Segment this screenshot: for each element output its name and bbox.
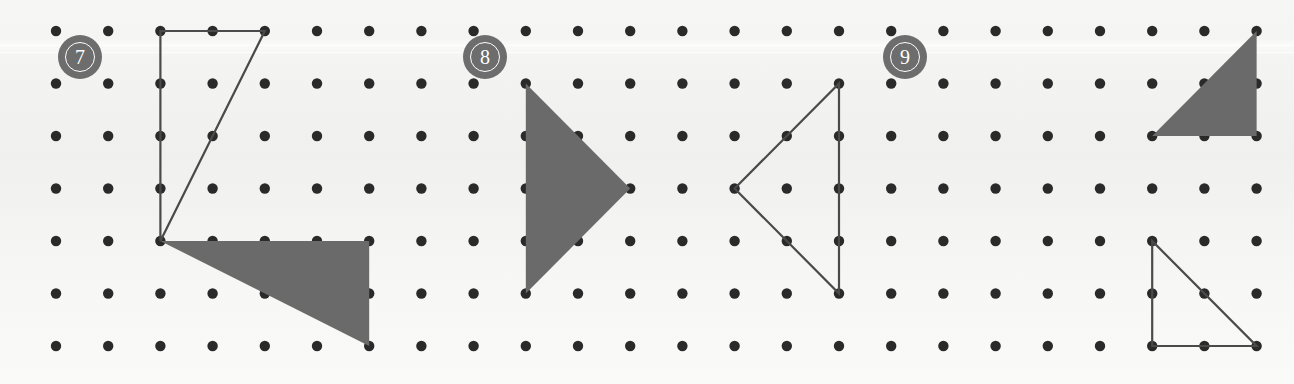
grid-dot bbox=[207, 78, 217, 88]
grid-dot bbox=[51, 183, 61, 193]
problem-badge-9: 9 bbox=[883, 35, 927, 79]
grid-dot bbox=[1095, 236, 1105, 246]
grid-dot bbox=[312, 26, 322, 36]
problem-8-filled-triangle bbox=[526, 84, 630, 294]
grid-dot bbox=[1095, 26, 1105, 36]
grid-dot bbox=[990, 26, 1000, 36]
grid-dot bbox=[573, 341, 583, 351]
grid-dot bbox=[468, 78, 478, 88]
grid-dot bbox=[990, 183, 1000, 193]
grid-dot bbox=[729, 236, 739, 246]
grid-dot bbox=[625, 341, 635, 351]
grid-dot bbox=[1043, 341, 1053, 351]
grid-dot bbox=[51, 78, 61, 88]
grid-dot bbox=[886, 341, 896, 351]
grid-dot bbox=[886, 236, 896, 246]
grid-dot bbox=[886, 131, 896, 141]
grid-dot bbox=[416, 341, 426, 351]
grid-dot bbox=[312, 78, 322, 88]
grid-dot bbox=[260, 341, 270, 351]
grid-dot bbox=[1095, 341, 1105, 351]
grid-dot bbox=[573, 288, 583, 298]
grid-dot bbox=[1095, 183, 1105, 193]
grid-dot bbox=[364, 26, 374, 36]
grid-dot bbox=[938, 26, 948, 36]
grid-dot bbox=[260, 78, 270, 88]
grid-dot bbox=[990, 131, 1000, 141]
grid-dot bbox=[990, 78, 1000, 88]
grid-dot bbox=[1199, 26, 1209, 36]
grid-dot bbox=[1095, 131, 1105, 141]
grid-dot bbox=[1043, 236, 1053, 246]
grid-dot bbox=[1043, 288, 1053, 298]
grid-dot bbox=[51, 236, 61, 246]
dot-grid bbox=[51, 26, 1262, 351]
grid-dot bbox=[468, 288, 478, 298]
shape-group bbox=[160, 31, 1256, 346]
grid-dot bbox=[1147, 26, 1157, 36]
badge-number-label: 7 bbox=[75, 47, 85, 67]
grid-dot bbox=[103, 288, 113, 298]
grid-dot bbox=[416, 78, 426, 88]
badge-ring: 9 bbox=[890, 42, 920, 72]
grid-dot bbox=[364, 78, 374, 88]
grid-dot bbox=[364, 131, 374, 141]
grid-dot bbox=[1095, 288, 1105, 298]
grid-dot bbox=[207, 341, 217, 351]
grid-dot bbox=[886, 26, 896, 36]
worksheet-canvas: 789 bbox=[0, 0, 1294, 384]
grid-dot bbox=[990, 341, 1000, 351]
grid-dot bbox=[834, 26, 844, 36]
grid-dot bbox=[834, 341, 844, 351]
grid-dot bbox=[782, 341, 792, 351]
grid-dot bbox=[416, 183, 426, 193]
grid-dot bbox=[1147, 183, 1157, 193]
grid-dot bbox=[729, 288, 739, 298]
grid-dot bbox=[521, 26, 531, 36]
grid-dot bbox=[1199, 236, 1209, 246]
badge-number-label: 8 bbox=[480, 47, 490, 67]
grid-dot bbox=[103, 236, 113, 246]
grid-dot bbox=[51, 131, 61, 141]
grid-dot bbox=[416, 288, 426, 298]
grid-dot bbox=[312, 183, 322, 193]
grid-dot bbox=[886, 288, 896, 298]
grid-dot bbox=[677, 341, 687, 351]
grid-dot bbox=[103, 26, 113, 36]
grid-dot bbox=[51, 26, 61, 36]
grid-dot bbox=[468, 26, 478, 36]
problem-badge-7: 7 bbox=[58, 35, 102, 79]
grid-dot bbox=[573, 26, 583, 36]
grid-dot bbox=[207, 288, 217, 298]
geometry-layer bbox=[0, 0, 1294, 384]
grid-dot bbox=[103, 341, 113, 351]
grid-dot bbox=[677, 26, 687, 36]
grid-dot bbox=[677, 236, 687, 246]
grid-dot bbox=[990, 236, 1000, 246]
grid-dot bbox=[886, 183, 896, 193]
grid-dot bbox=[1251, 236, 1261, 246]
grid-dot bbox=[468, 341, 478, 351]
grid-dot bbox=[416, 26, 426, 36]
grid-dot bbox=[782, 183, 792, 193]
grid-dot bbox=[886, 78, 896, 88]
grid-dot bbox=[103, 183, 113, 193]
grid-dot bbox=[625, 236, 635, 246]
grid-dot bbox=[468, 183, 478, 193]
grid-dot bbox=[521, 341, 531, 351]
grid-dot bbox=[625, 78, 635, 88]
grid-dot bbox=[416, 131, 426, 141]
grid-dot bbox=[312, 131, 322, 141]
grid-dot bbox=[782, 78, 792, 88]
grid-dot bbox=[1147, 78, 1157, 88]
grid-dot bbox=[729, 78, 739, 88]
grid-dot bbox=[103, 131, 113, 141]
grid-dot bbox=[990, 288, 1000, 298]
grid-dot bbox=[312, 341, 322, 351]
grid-dot bbox=[625, 26, 635, 36]
grid-dot bbox=[260, 131, 270, 141]
grid-dot bbox=[625, 288, 635, 298]
grid-dot bbox=[938, 288, 948, 298]
grid-dot bbox=[1043, 131, 1053, 141]
grid-dot bbox=[938, 236, 948, 246]
